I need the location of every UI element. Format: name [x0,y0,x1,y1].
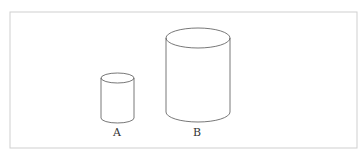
cylinder-b-body [166,38,230,122]
cylinder-comparison-diagram: A B [0,0,361,153]
cylinder-b: B [166,28,230,139]
cylinder-a-body [101,78,134,123]
diagram-frame [10,12,357,148]
cylinder-b-label: B [193,126,201,139]
cylinder-b-top-ellipse [166,28,230,48]
cylinder-a: A [101,73,134,139]
cylinder-a-top-ellipse [101,73,134,83]
cylinder-a-label: A [112,126,122,139]
